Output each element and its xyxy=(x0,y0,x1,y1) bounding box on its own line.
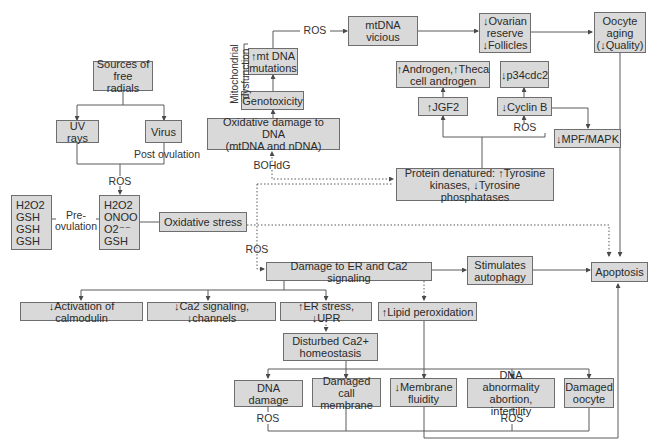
node-disturbed-ca2-homeostasis: Disturbed Ca2+ homeostasis xyxy=(283,333,378,361)
node-dna-damage: DNA damage xyxy=(234,380,303,407)
label-ros-dna-abnormality: ROS xyxy=(497,413,527,424)
node-mtdna-vicious: mtDNA vicious xyxy=(348,16,418,46)
node-androgen: ↑Androgen,↑Theca cell androgen xyxy=(396,61,490,88)
label-ros-cyclin: ROS xyxy=(510,122,540,133)
node-jgf2: ↑JGF2 xyxy=(418,97,468,116)
node-cyclin-b: ↓Cyclin B xyxy=(497,97,552,116)
node-activation-calmodulin: ↓Activation of calmodulin xyxy=(20,302,143,321)
edge-bohdg-protein xyxy=(272,170,393,179)
node-membrane-fluidity: ↓Membrane fluidity xyxy=(390,378,457,407)
node-ca2-signaling-channels: ↓Ca2 signaling, ↓channels xyxy=(147,302,276,321)
node-damaged-oocyte: Damaged oocyte xyxy=(564,378,614,408)
ovarian-oxidative-stress-diagram: Sources of free radials UV rays Virus ↑m… xyxy=(0,0,660,444)
node-post-ovulation-species: H2O2 ONOO O2⁻⁻ GSH xyxy=(99,195,140,250)
node-stimulates-autophagy: Stimulates autophagy xyxy=(467,256,533,285)
label-ros-sources: ROS xyxy=(105,176,135,187)
node-mt-dna-mutations: ↑mt DNA mutations xyxy=(248,48,298,75)
node-oxidative-damage-dna: Oxidative damage to DNA (mtDNA and nDNA) xyxy=(207,118,340,150)
node-p34cdc2: ↓p34cdc2 xyxy=(500,61,549,88)
label-bohdg: BOHdG xyxy=(252,160,292,171)
node-er-stress-upr: ↑ER stress, ↓UPR xyxy=(280,302,372,321)
node-sources-of-free-radicals: Sources of free radials xyxy=(93,61,153,91)
label-ros-er: ROS xyxy=(242,244,272,255)
label-pre-ovulation: Pre- ovulation xyxy=(54,210,98,232)
node-uv-rays: UV rays xyxy=(56,120,99,143)
node-apoptosis: Apoptosis xyxy=(591,262,648,282)
node-dna-abnormality: DNA abnormality abortion, infertility xyxy=(467,378,555,408)
label-ros-dna-damage: ROS xyxy=(253,413,283,424)
node-lipid-peroxidation: ↑Lipid peroxidation xyxy=(378,302,477,321)
edge-mut-ros xyxy=(273,31,300,48)
node-mpf-mapk: ↓MPF/MAPK xyxy=(554,129,621,148)
edge-to-damage-er xyxy=(257,184,264,269)
node-damage-er-ca2: Damage to ER and Ca2 signaling xyxy=(266,262,432,281)
edge-cyclin-mpf xyxy=(552,108,588,128)
label-mitochondrial-dysfunction: Mitochondrial dysfunction xyxy=(229,29,253,119)
node-ovarian-reserve: ↓Ovarian reserve ↓Follicles xyxy=(479,13,531,53)
node-virus: Virus xyxy=(145,120,182,143)
node-protein-denatured: Protein denatured: ↑Tyrosine kinases, ↓T… xyxy=(396,168,554,201)
node-damaged-cell-membrane: Damaged call membrane xyxy=(312,378,381,407)
label-post-ovulation: Post ovulation xyxy=(132,149,202,160)
node-pre-ovulation-species: H2O2 GSH GSH GSH xyxy=(11,195,52,250)
edge-stress-apoptosis xyxy=(247,225,609,256)
label-ros-top: ROS xyxy=(300,25,330,36)
node-oxidative-stress: Oxidative stress xyxy=(159,212,247,232)
node-oocyte-aging: Oocyte aging (↓Quality) xyxy=(594,12,646,53)
